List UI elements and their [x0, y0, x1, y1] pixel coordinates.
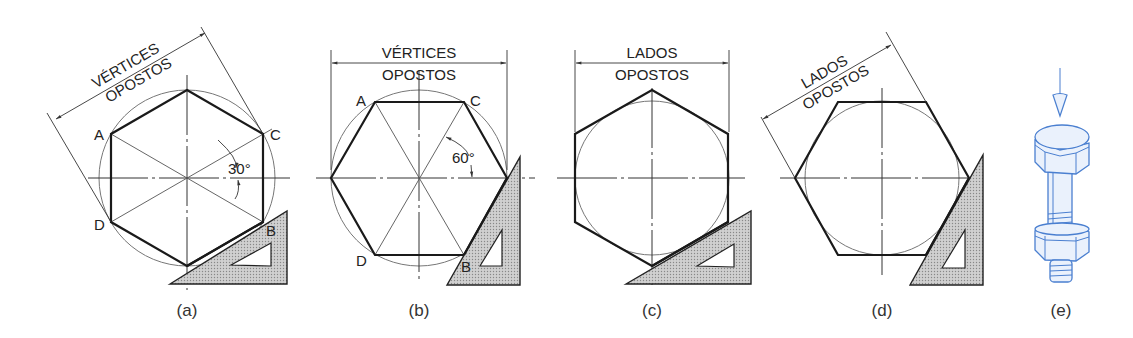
panel-b: VÉRTICES OPOSTOS 60° A C D B (b)	[316, 44, 535, 320]
panel-c: LADOS OPOSTOS (c)	[557, 44, 751, 320]
extension-line	[886, 32, 926, 102]
extension-line	[761, 117, 795, 178]
view-arrow-cone	[1053, 94, 1067, 117]
panel-e: (e)	[1035, 68, 1089, 320]
vertex-label-d: D	[356, 252, 367, 269]
angle-label: 30°	[228, 160, 251, 177]
dimension-label-line2: OPOSTOS	[382, 66, 456, 83]
nut-top	[1035, 223, 1089, 235]
caption-e: (e)	[1051, 301, 1072, 320]
angle-arrow	[471, 165, 472, 177]
bolt-icon	[1035, 68, 1089, 282]
caption-c: (c)	[642, 301, 662, 320]
dimension-label-line1: VÉRTICES	[382, 44, 457, 61]
panel-a: VÉRTICES OPOSTOS 30° A C D B (a)	[47, 27, 290, 320]
caption-a: (a)	[177, 301, 198, 320]
hexagon-construction-diagram: VÉRTICES OPOSTOS 30° A C D B (a) VÉRTICE…	[0, 0, 1133, 338]
dimension-label-line2: OPOSTOS	[615, 66, 689, 83]
vertex-label-c: C	[270, 126, 281, 143]
bolt-head-top	[1035, 125, 1089, 149]
vertex-label-b: B	[461, 258, 471, 275]
panel-d: LADOS OPOSTOS (d)	[761, 32, 983, 320]
dimension-label-line1: LADOS	[627, 44, 678, 61]
vertex-label-b: B	[266, 222, 276, 239]
vertex-label-c: C	[470, 92, 481, 109]
bolt-shank	[1048, 170, 1072, 230]
angle-label: 60°	[452, 149, 475, 166]
vertex-label-d: D	[94, 216, 105, 233]
angle-arc	[235, 180, 239, 199]
caption-d: (d)	[872, 301, 893, 320]
vertex-label-a: A	[356, 92, 366, 109]
extension-line	[201, 27, 263, 134]
vertex-label-a: A	[94, 126, 104, 143]
caption-b: (b)	[409, 301, 430, 320]
